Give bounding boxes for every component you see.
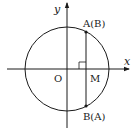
point-bottom-label: B(A) [83,111,105,122]
x-axis-label: x [124,55,131,68]
origin-label: O [54,73,62,84]
y-axis-label: y [53,3,61,16]
point-bottom [84,104,87,107]
diagram-canvas: y x O M A(B) B(A) [0,0,137,136]
unit-circle-diagram: y x O M A(B) B(A) [0,0,137,136]
point-top-label: A(B) [82,18,105,29]
point-m-label: M [90,73,100,84]
point-top [84,30,87,33]
right-angle-mark [79,62,86,69]
